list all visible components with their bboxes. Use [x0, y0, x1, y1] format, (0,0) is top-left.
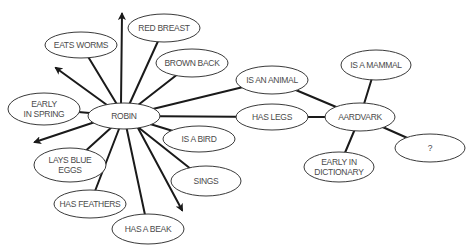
node-has-a-beak: HAS A BEAK	[112, 214, 184, 244]
semantic-network-diagram: ROBINEATS WORMSRED BREASTBROWN BACKEARLY…	[0, 0, 470, 252]
node-label: HAS FEATHERS	[60, 199, 122, 209]
node-label: IN SPRING	[24, 109, 65, 119]
node-aardvark: AARDVARK	[325, 103, 395, 131]
node-sings: SINGS	[171, 166, 241, 196]
node-label: IS A MAMMAL	[350, 60, 402, 70]
node-early-in-dictionary: EARLY INDICTIONARY	[304, 152, 374, 182]
node-label: DICTIONARY	[314, 167, 364, 177]
node-label: IS A BIRD	[181, 134, 216, 144]
node-label: BROWN BACK	[164, 58, 220, 68]
node-unknown: ?	[395, 134, 465, 162]
node-eats-worms: EATS WORMS	[45, 32, 117, 58]
node-label: EATS WORMS	[54, 40, 109, 50]
node-has-feathers: HAS FEATHERS	[54, 190, 126, 218]
node-label: EARLY IN	[321, 157, 357, 167]
node-label: LAYS BLUE	[49, 155, 93, 165]
node-lays-blue-eggs: LAYS BLUEEGGS	[34, 148, 106, 182]
node-is-an-animal: IS AN ANIMAL	[236, 66, 308, 94]
node-early-in-spring: EARLYIN SPRING	[8, 93, 80, 125]
node-label: IS AN ANIMAL	[246, 75, 298, 85]
node-is-a-bird: IS A BIRD	[163, 126, 235, 152]
node-robin: ROBIN	[88, 103, 160, 129]
node-label: RED BREAST	[138, 23, 189, 33]
node-label: EARLY	[31, 99, 57, 109]
node-label: HAS LEGS	[252, 112, 293, 122]
node-has-legs: HAS LEGS	[236, 104, 308, 130]
open-arrow-0	[121, 14, 122, 104]
node-brown-back: BROWN BACK	[156, 49, 228, 77]
node-is-a-mammal: IS A MAMMAL	[341, 50, 411, 80]
node-label: HAS A BEAK	[125, 224, 172, 234]
node-red-breast: RED BREAST	[128, 14, 200, 42]
node-label: EGGS	[58, 165, 82, 175]
node-label: ROBIN	[111, 111, 137, 121]
node-label: SINGS	[194, 176, 220, 186]
node-label: ?	[428, 143, 433, 153]
node-label: AARDVARK	[338, 112, 382, 122]
